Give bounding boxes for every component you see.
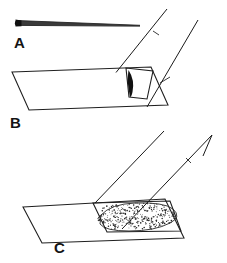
needle-bevel-tick-b [153,31,159,35]
stipple-dot [121,207,122,208]
stipple-dot [100,215,102,217]
stipple-dot [167,220,168,221]
stipple-dot [118,225,119,226]
stipple-dot [169,222,171,224]
stipple-dot [115,212,116,213]
stipple-dot [98,220,99,221]
stipple-dot [121,215,122,216]
stipple-dot [106,205,108,207]
stipple-dot [123,213,125,215]
stipple-dot [108,223,109,224]
stipple-dot [165,209,167,211]
stipple-dot [147,210,148,211]
needle-elbow-c [203,135,212,156]
stipple-dot [123,221,124,222]
stipple-dot [116,224,117,225]
stipple-dot [131,225,132,226]
stipple-dot [139,221,140,222]
stipple-dot [117,206,118,207]
stipple-dot [171,220,172,221]
stipple-dot [110,225,111,226]
stipple-dot [153,224,154,225]
stipple-dot [156,203,157,204]
stipple-dot [133,212,135,214]
stipple-dot [125,210,126,211]
stipple-dot [142,214,143,215]
stipple-dot [98,217,99,218]
stipple-dot [146,223,147,224]
stipple-dot [103,214,105,216]
stipple-dot [136,218,137,219]
stipple-dot [154,205,155,206]
stipple-dot [107,217,108,218]
stipple-dot [137,209,139,211]
stipple-dot [135,203,136,204]
stipple-dot [148,220,150,222]
figure-container: A B [0,0,227,263]
stipple-dot [111,214,112,215]
stipple-dot [109,207,110,208]
stipple-dot [144,216,146,218]
stipple-dot [119,221,120,222]
stipple-dot [167,211,168,212]
stipple-dot [119,210,120,211]
stipple-dot [102,216,103,217]
stipple-dot [123,205,124,206]
stipple-dot [133,226,134,227]
stipple-dot [112,223,113,224]
stipple-dot [126,210,128,212]
stipple-dot [158,226,159,227]
stipple-dot [173,216,175,218]
stipple-dot [103,222,105,224]
stipple-dot [136,209,137,210]
stipple-dot [129,218,130,219]
stipple-dot [116,216,117,217]
stipple-dot [148,207,149,208]
stipple-dot [136,227,137,228]
panel-label-b: B [10,114,21,131]
stipple-dot [171,212,172,213]
stipple-dot [157,216,158,217]
stipple-dot [112,220,113,221]
stipple-dot [143,218,145,220]
stipple-dot [133,204,134,205]
stipple-dot [137,217,138,218]
stipple-dot [143,227,145,229]
stipple-dot [138,218,139,219]
stipple-dot [133,205,134,206]
stipple-dot [128,203,130,205]
stipple-dot [131,208,132,209]
stipple-dot [112,213,113,214]
stipple-dot [172,216,173,217]
stipple-dot [114,224,116,226]
stipple-dot [165,211,166,212]
stipple-dot [104,227,105,228]
stipple-dot [151,210,152,211]
stipple-dot [162,216,163,217]
stipple-dot [157,209,158,210]
stipple-dot [152,222,153,223]
stipple-dot [134,211,135,212]
stipple-dot [146,216,147,217]
stipple-dot [151,207,152,208]
stipple-dot [161,218,163,220]
specimen-surface-b [12,67,168,110]
stipple-dot [111,207,112,208]
panel-c-group: C [23,131,212,256]
stipple-dot [113,206,114,207]
stipple-dot [112,211,113,212]
stipple-dot [121,212,123,214]
stipple-dot [169,209,170,210]
stipple-dot [156,206,157,207]
stipple-dot [157,204,158,205]
panel-a-group: A [14,20,140,51]
stipple-dot [129,227,130,228]
stipple-dot [153,207,154,208]
stipple-dot [150,225,152,227]
stipple-dot [162,220,164,222]
needle-edge-right-b [147,20,198,107]
stipple-dot [120,220,122,222]
stipple-dot [161,225,162,226]
stipple-dot [131,216,132,217]
stipple-dot [109,218,110,219]
